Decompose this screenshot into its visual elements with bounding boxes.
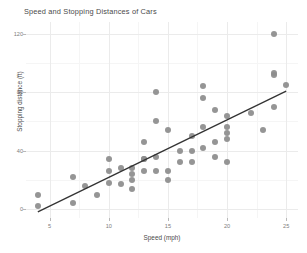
y-tick-mark — [23, 151, 26, 152]
x-tick-label: 5 — [48, 223, 51, 229]
x-tick-label: 15 — [165, 223, 171, 229]
y-tick-label: 120 — [14, 31, 23, 37]
x-axis-title: Speed (mph) — [26, 234, 298, 241]
x-tick-mark — [50, 218, 51, 221]
y-tick-mark — [23, 34, 26, 35]
x-tick-label: 10 — [106, 223, 112, 229]
y-axis-title: Stopping distance (ft) — [16, 47, 23, 157]
chart-container: Speed and Stopping Distances of Cars 040… — [0, 0, 307, 253]
x-tick-mark — [168, 218, 169, 221]
x-tick-mark — [227, 218, 228, 221]
x-tick-label: 20 — [224, 223, 230, 229]
regression-line — [26, 22, 298, 218]
plot-panel — [26, 22, 298, 218]
y-tick-mark — [23, 92, 26, 93]
chart-title: Speed and Stopping Distances of Cars — [24, 7, 157, 16]
y-tick-mark — [23, 209, 26, 210]
x-axis-ticks: 510152025 — [26, 218, 298, 232]
x-tick-label: 25 — [283, 223, 289, 229]
x-tick-mark — [286, 218, 287, 221]
x-tick-mark — [109, 218, 110, 221]
